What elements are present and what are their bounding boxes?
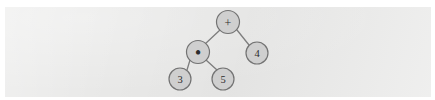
tree-node-three[interactable]: 3 — [169, 68, 191, 90]
figure-root: + • 4 3 5 — [0, 0, 435, 100]
edge-times-to-three — [187, 60, 190, 70]
tree-node-times[interactable]: • — [187, 41, 210, 64]
node-label-five: 5 — [220, 74, 225, 85]
edge-times-to-five — [206, 60, 217, 70]
node-label-four: 4 — [254, 48, 260, 59]
expression-tree-diagram: + • 4 3 5 — [0, 0, 435, 100]
node-label-times: • — [195, 44, 201, 61]
tree-node-five[interactable]: 5 — [212, 68, 234, 90]
edge-root-to-times — [205, 30, 220, 44]
tree-nodes: + • 4 3 5 — [169, 11, 268, 91]
node-label-three: 3 — [177, 74, 182, 85]
edge-root-to-four — [237, 30, 249, 45]
node-label-root: + — [225, 16, 232, 30]
tree-node-four[interactable]: 4 — [246, 42, 268, 64]
tree-node-root[interactable]: + — [217, 11, 240, 34]
